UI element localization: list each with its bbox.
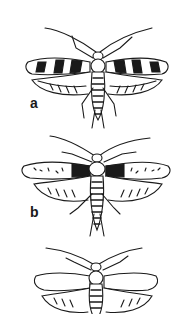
moth-illustration-plate: a b — [0, 0, 184, 314]
panel-label-b: b — [30, 205, 39, 219]
panel-label-a: a — [30, 96, 38, 110]
moth-c-drawing — [0, 0, 184, 314]
